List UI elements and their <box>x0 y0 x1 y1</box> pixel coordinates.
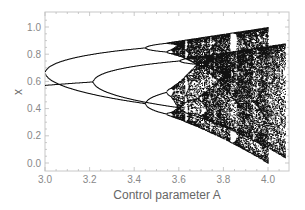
x-tick-label: 3.0 <box>38 174 52 185</box>
y-tick-label: 0.4 <box>27 103 41 114</box>
x-axis-title: Control parameter A <box>113 188 220 202</box>
y-tick-label: 0.0 <box>27 158 41 169</box>
y-axis-title: x <box>11 89 25 95</box>
x-tick-label: 3.4 <box>127 174 141 185</box>
y-tick-label: 0.2 <box>27 130 41 141</box>
x-tick-label: 3.8 <box>216 174 230 185</box>
x-tick-label: 4.0 <box>261 174 275 185</box>
y-tick-label: 0.8 <box>27 49 41 60</box>
bifurcation-chart: 3.0 3.2 3.4 3.6 3.8 4.0 0.0 0.2 0.4 0.6 … <box>0 0 305 210</box>
x-tick-label: 3.6 <box>172 174 186 185</box>
y-tick-label: 1.0 <box>27 22 41 33</box>
y-tick-label: 0.6 <box>27 76 41 87</box>
x-tick-label: 3.2 <box>83 174 97 185</box>
